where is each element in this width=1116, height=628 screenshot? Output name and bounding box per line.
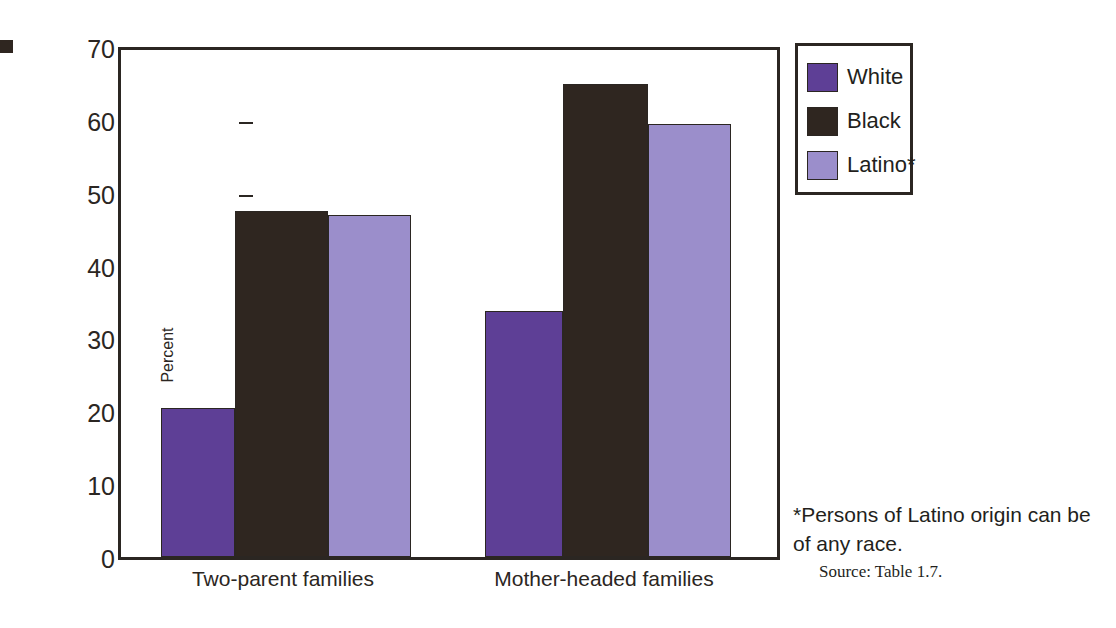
y-axis-tick-label: 60: [87, 107, 115, 137]
y-axis-tick-label: 30: [87, 325, 115, 355]
chart-plot-area: 010203040506070 Percent: [118, 50, 779, 560]
footnote-text: *Persons of Latino origin can be of any …: [793, 500, 1108, 558]
y-axis-tick-label: 20: [87, 398, 115, 428]
legend-item-white: White: [807, 55, 910, 99]
legend-label-black: Black: [847, 108, 901, 134]
legend-swatch-black: [807, 107, 838, 136]
y-axis-tick-label: 40: [87, 253, 115, 283]
cut-off-marker: [0, 40, 13, 53]
bar: [648, 124, 731, 558]
y-axis-tick-label: 10: [87, 471, 115, 501]
bar: [161, 408, 235, 557]
bar: [328, 215, 411, 557]
x-axis-group-label: Two-parent families: [113, 567, 453, 591]
x-axis-group-label: Mother-headed families: [434, 567, 774, 591]
bar: [485, 311, 563, 557]
legend-swatch-latino: [807, 151, 838, 180]
legend-swatch-white: [807, 63, 838, 92]
legend-label-white: White: [847, 64, 903, 90]
y-axis-tick-mark: [239, 122, 253, 124]
y-axis-tick-label: 50: [87, 180, 115, 210]
chart-legend: White Black Latino*: [795, 43, 913, 195]
y-axis-tick-label: 70: [87, 34, 115, 64]
bar: [235, 211, 328, 557]
source-text: Source: Table 1.7.: [819, 562, 942, 582]
y-axis-tick-mark: [239, 195, 253, 197]
legend-label-latino: Latino*: [847, 152, 916, 178]
legend-item-latino: Latino*: [807, 143, 910, 187]
bar: [563, 84, 648, 557]
y-axis-title: Percent: [159, 285, 177, 425]
legend-item-black: Black: [807, 99, 910, 143]
